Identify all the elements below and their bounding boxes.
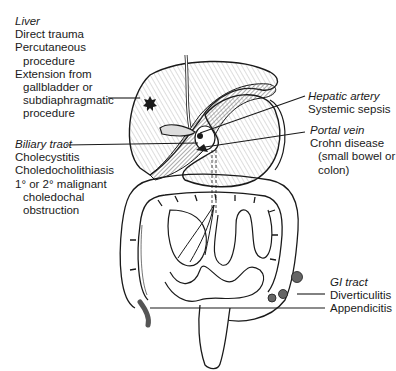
biliary-tract-label: Biliary tract Cholecystitis Choledocholi…	[15, 138, 114, 217]
biliary-cause: Choledocholithiasis	[15, 164, 114, 177]
liver-heading: Liver	[15, 15, 114, 28]
hepatic-abscess-diagram: Liver Direct trauma Percutaneous procedu…	[0, 0, 396, 371]
small-intestine	[165, 205, 272, 301]
gi-tract-cause: Appendicitis	[330, 302, 392, 315]
hepatic-artery-cause: Systemic sepsis	[308, 103, 390, 116]
liver-cause: gallbladder or	[15, 81, 114, 94]
portal-vein-cause: colon)	[310, 164, 395, 177]
gi-tract-heading: GI tract	[330, 276, 392, 289]
appendix	[140, 302, 149, 325]
gi-tract-cause: Diverticulitis	[330, 289, 392, 302]
liver-cause: Percutaneous	[15, 41, 114, 54]
biliary-heading: Biliary tract	[15, 138, 114, 151]
biliary-cause: Cholecystitis	[15, 151, 114, 164]
portal-vein-cause: (small bowel or	[310, 150, 395, 163]
portal-vein-cause: Crohn disease	[310, 137, 395, 150]
portal-vein-label: Portal vein Crohn disease (small bowel o…	[310, 124, 395, 177]
liver-cause: Extension from	[15, 68, 114, 81]
biliary-cause: choledochal	[15, 191, 114, 204]
gi-tract-label: GI tract Diverticulitis Appendicitis	[330, 276, 392, 316]
biliary-cause: 1° or 2° malignant	[15, 178, 114, 191]
liver-label: Liver Direct trauma Percutaneous procedu…	[15, 15, 114, 121]
biliary-cause: obstruction	[15, 204, 114, 217]
hepatic-artery-label: Hepatic artery Systemic sepsis	[308, 90, 390, 116]
portal-vein-heading: Portal vein	[310, 124, 395, 137]
diverticula	[268, 272, 303, 303]
rectum	[199, 305, 230, 369]
liver-cause: Direct trauma	[15, 28, 114, 41]
hepatic-artery-heading: Hepatic artery	[308, 90, 390, 103]
liver-cause: subdiaphragmatic	[15, 94, 114, 107]
liver-cause: procedure	[15, 55, 114, 68]
liver-cause: procedure	[15, 107, 114, 120]
